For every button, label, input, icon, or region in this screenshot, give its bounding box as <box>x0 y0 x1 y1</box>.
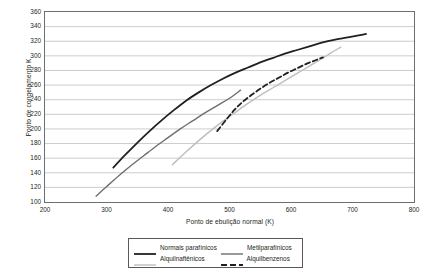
y-axis-tick-label: 280 <box>19 67 41 73</box>
legend-item[interactable]: Metilparafínicos <box>216 242 302 253</box>
y-axis-tick-label: 220 <box>19 111 41 117</box>
x-axis-tick-label: 400 <box>148 207 188 213</box>
legend-label: Metilparafínicos <box>247 244 292 251</box>
x-axis-tick-label: 300 <box>87 207 127 213</box>
legend-swatch-icon <box>221 255 243 263</box>
legend-item[interactable]: Alquilnaftênicos <box>129 253 216 264</box>
legend-swatch-icon <box>134 244 156 252</box>
y-axis-tick-label: 140 <box>19 170 41 176</box>
x-axis-tick-label: 800 <box>394 207 429 213</box>
x-axis-tick-label: 200 <box>25 207 65 213</box>
legend-row: AlquilnaftênicosAlquilbenzenos <box>129 253 302 264</box>
series-line <box>96 90 241 196</box>
legend-swatch-icon <box>221 244 243 252</box>
legend-label: Alquilbenzenos <box>247 255 290 262</box>
chart-legend: Normais parafínicosMetilparafínicosAlqui… <box>128 238 303 268</box>
y-axis-tick-label: 200 <box>19 126 41 132</box>
y-axis-tick-label: 100 <box>19 199 41 205</box>
y-axis-tick-label: 160 <box>19 155 41 161</box>
y-axis-tick-label: 320 <box>19 38 41 44</box>
y-axis-tick-label: 180 <box>19 140 41 146</box>
legend-label: Normais parafínicos <box>160 244 217 251</box>
plot-area <box>44 11 415 203</box>
y-axis-tick-label: 120 <box>19 184 41 190</box>
y-axis-tick-label: 240 <box>19 96 41 102</box>
legend-item[interactable]: Alquilbenzenos <box>216 253 303 264</box>
x-axis-title: Ponto de ebulição normal (K) <box>44 218 416 225</box>
legend-label: Alquilnaftênicos <box>160 255 205 262</box>
x-axis-tick-label: 500 <box>210 207 250 213</box>
legend-swatch-icon <box>134 255 156 263</box>
legend-item[interactable]: Normais parafínicos <box>129 242 216 253</box>
x-axis-tick-label: 700 <box>333 207 373 213</box>
series-line <box>217 57 323 131</box>
y-axis-tick-label: 260 <box>19 82 41 88</box>
x-axis-tick-label: 600 <box>271 207 311 213</box>
y-axis-tick-label: 300 <box>19 53 41 59</box>
chart-figure: Ponto de congelamento K 1001201401601802… <box>0 0 429 277</box>
y-axis-tick-label: 340 <box>19 23 41 29</box>
legend-row: Normais parafínicosMetilparafínicos <box>129 242 302 253</box>
y-axis-tick-label: 360 <box>19 9 41 15</box>
y-axis-tick-labels: 1001201401601802002202402602803003203403… <box>16 0 41 277</box>
plot-svg <box>45 12 414 202</box>
